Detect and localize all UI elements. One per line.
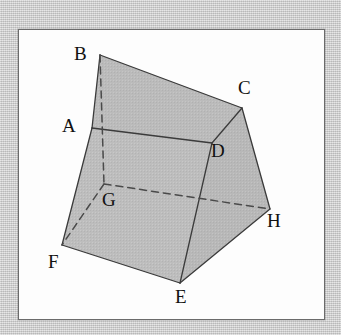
vertex-label-e: E <box>175 287 187 306</box>
vertex-label-g: G <box>102 190 116 209</box>
figure-page: ABCDEFGH <box>0 0 341 335</box>
figure-frame <box>18 29 325 320</box>
vertex-label-a: A <box>62 116 76 135</box>
vertex-label-f: F <box>48 252 59 271</box>
vertex-label-h: H <box>267 211 281 230</box>
vertex-label-d: D <box>211 141 225 160</box>
vertex-label-c: C <box>238 78 251 97</box>
vertex-label-b: B <box>74 44 87 63</box>
